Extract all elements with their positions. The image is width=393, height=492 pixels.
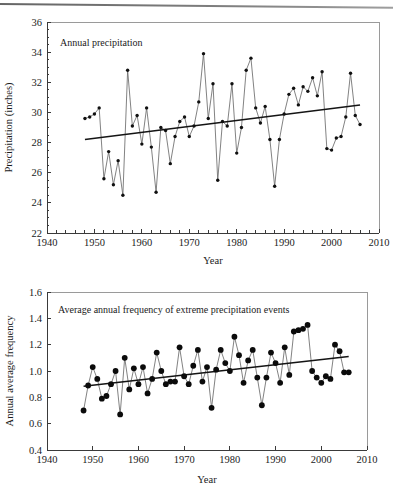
svg-text:0.6: 0.6 — [29, 418, 42, 429]
svg-text:0.8: 0.8 — [29, 392, 42, 403]
x-axis-title: Year — [197, 474, 217, 485]
svg-text:1950: 1950 — [84, 237, 105, 248]
svg-text:1940: 1940 — [37, 454, 58, 465]
extreme-precip-frequency-svg: 0.40.60.81.01.21.41.61940195019601970198… — [0, 282, 393, 492]
svg-text:1960: 1960 — [128, 454, 149, 465]
y-axis-title: Precipitation (inches) — [3, 82, 15, 173]
svg-text:2010: 2010 — [369, 237, 390, 248]
svg-text:36: 36 — [32, 17, 43, 28]
svg-text:30: 30 — [32, 107, 43, 118]
svg-text:1.0: 1.0 — [29, 366, 42, 377]
svg-text:1980: 1980 — [226, 237, 247, 248]
svg-text:1.2: 1.2 — [29, 339, 42, 350]
svg-text:34: 34 — [32, 47, 43, 58]
svg-text:1.4: 1.4 — [29, 313, 43, 324]
svg-text:1980: 1980 — [219, 454, 240, 465]
y-axis-title: Annual average frequency — [4, 315, 15, 427]
svg-text:1990: 1990 — [274, 237, 295, 248]
svg-text:2000: 2000 — [321, 237, 342, 248]
svg-text:2000: 2000 — [311, 454, 332, 465]
svg-text:24: 24 — [32, 197, 43, 208]
svg-text:1970: 1970 — [179, 237, 200, 248]
chart-annual-precipitation: 2224262830323436194019501960197019801990… — [0, 6, 393, 274]
chart-extreme-precip-frequency: 0.40.60.81.01.21.41.61940195019601970198… — [0, 282, 393, 492]
svg-text:1940: 1940 — [37, 237, 58, 248]
svg-text:28: 28 — [32, 137, 43, 148]
svg-text:1.6: 1.6 — [29, 287, 42, 298]
panel-title: Annual precipitation — [60, 37, 142, 48]
svg-text:1950: 1950 — [82, 454, 103, 465]
svg-text:26: 26 — [32, 167, 43, 178]
svg-text:1960: 1960 — [131, 237, 152, 248]
svg-text:1990: 1990 — [265, 454, 286, 465]
svg-text:1970: 1970 — [174, 454, 195, 465]
annual-precipitation-svg: 2224262830323436194019501960197019801990… — [0, 6, 393, 274]
svg-text:32: 32 — [32, 77, 43, 88]
panel-title: Average annual frequency of extreme prec… — [58, 304, 289, 315]
figure-page: 2224262830323436194019501960197019801990… — [0, 0, 393, 492]
svg-text:2010: 2010 — [357, 454, 378, 465]
x-axis-title: Year — [203, 255, 223, 266]
